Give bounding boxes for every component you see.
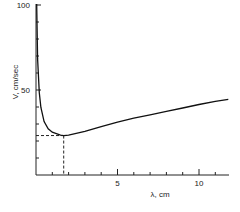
x-axis-label: λ, cm [150, 190, 169, 199]
x-ticks [52, 169, 215, 175]
velocity-curve [37, 4, 229, 136]
axes [36, 4, 229, 175]
x-tick-label-5: 5 [115, 179, 120, 188]
y-tick-label-50: 50 [21, 86, 30, 95]
minimum-reference-lines [36, 136, 64, 175]
x-tick-label-10: 10 [195, 179, 204, 188]
chart: 100 50 5 10 λ, cm V, cm/sec [0, 0, 240, 212]
y-tick-label-100: 100 [17, 1, 31, 10]
y-axis-label: V, cm/sec [11, 65, 20, 99]
